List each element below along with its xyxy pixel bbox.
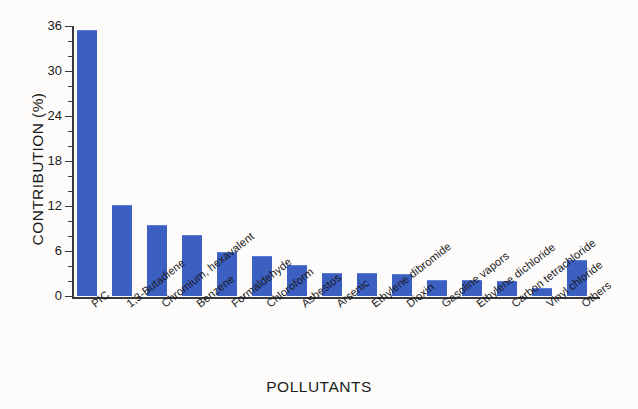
y-tick-minor bbox=[68, 131, 72, 132]
x-axis-title: POLLUTANTS bbox=[0, 378, 638, 396]
y-tick-minor bbox=[68, 41, 72, 42]
y-tick-label: 18 bbox=[26, 153, 62, 168]
y-tick-minor bbox=[68, 56, 72, 57]
y-tick-label: 12 bbox=[26, 198, 62, 213]
bar bbox=[112, 205, 132, 296]
y-tick-label: 6 bbox=[26, 243, 62, 258]
x-axis-tick-labels: PIC1,3-ButadieneChromium, hexavalentBenz… bbox=[72, 300, 632, 380]
y-tick-minor bbox=[68, 281, 72, 282]
bar bbox=[77, 30, 97, 297]
y-tick-minor bbox=[68, 86, 72, 87]
y-tick-minor bbox=[68, 146, 72, 147]
y-tick-major bbox=[65, 71, 72, 73]
y-tick-minor bbox=[68, 236, 72, 237]
y-tick-major bbox=[65, 206, 72, 208]
y-tick-label: 24 bbox=[26, 108, 62, 123]
y-axis-line bbox=[72, 26, 74, 298]
y-tick-minor bbox=[68, 221, 72, 222]
y-tick-major bbox=[65, 26, 72, 28]
y-tick-label: 36 bbox=[26, 18, 62, 33]
y-axis-title: CONTRIBUTION (%) bbox=[29, 69, 47, 269]
y-tick-label: 0 bbox=[26, 288, 62, 303]
plot-area bbox=[72, 26, 600, 298]
y-tick-major bbox=[65, 296, 72, 298]
y-tick-major bbox=[65, 116, 72, 118]
y-tick-minor bbox=[68, 101, 72, 102]
y-tick-minor bbox=[68, 266, 72, 267]
y-tick-minor bbox=[68, 176, 72, 177]
y-tick-major bbox=[65, 161, 72, 163]
y-tick-minor bbox=[68, 191, 72, 192]
bar-chart-figure: CONTRIBUTION (%) 061218243036 PIC1,3-But… bbox=[0, 0, 638, 409]
y-tick-major bbox=[65, 251, 72, 253]
y-tick-label: 30 bbox=[26, 63, 62, 78]
